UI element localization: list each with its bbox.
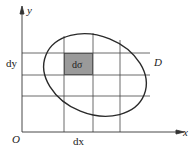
region-label: D xyxy=(153,56,162,68)
double-integral-diagram: y x O D dσ dy dx xyxy=(0,0,193,160)
dy-label: dy xyxy=(6,57,18,69)
dx-label: dx xyxy=(73,135,85,147)
x-axis-label: x xyxy=(182,126,188,138)
grid-lines xyxy=(22,33,150,132)
y-axis-label: y xyxy=(26,4,32,16)
axes xyxy=(20,6,184,134)
area-element-label: dσ xyxy=(72,59,83,70)
y-axis-arrow-icon xyxy=(20,6,24,14)
origin-label: O xyxy=(12,133,20,145)
